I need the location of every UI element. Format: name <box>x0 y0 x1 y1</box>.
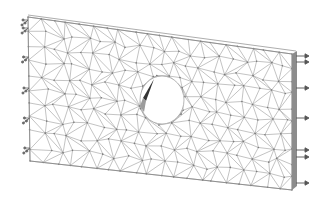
mesh-edge <box>216 100 226 103</box>
mesh-edge <box>114 156 129 159</box>
mesh-edge <box>73 150 90 151</box>
mesh-edge <box>105 114 121 115</box>
mesh-node <box>267 107 269 109</box>
mesh-edge <box>185 97 192 107</box>
mesh-node <box>185 65 187 67</box>
mesh-edge <box>45 133 63 153</box>
mesh-edge <box>81 38 91 52</box>
mesh-edge <box>100 42 115 43</box>
mesh-node <box>208 140 210 142</box>
mesh-edge <box>190 41 200 56</box>
mesh-edge <box>65 94 69 107</box>
mesh-edge <box>274 134 281 150</box>
mesh-edge <box>185 66 191 81</box>
mesh-edge <box>212 124 220 140</box>
mesh-edge <box>29 89 48 91</box>
mesh-edge <box>120 161 142 171</box>
mesh-node <box>116 129 118 131</box>
mesh-node <box>257 119 259 121</box>
mesh-edge <box>189 120 191 136</box>
mesh-node <box>269 173 271 175</box>
mesh-edge <box>227 142 233 153</box>
mesh-node <box>271 89 273 91</box>
mesh-edge <box>53 104 63 124</box>
mesh-edge <box>140 45 154 47</box>
mesh-edge <box>63 122 74 124</box>
mesh-node <box>44 132 46 134</box>
mesh-edge <box>53 94 65 105</box>
mesh-edge <box>89 69 102 72</box>
mesh-node <box>178 50 180 52</box>
mesh-edge <box>252 159 269 162</box>
mesh-edge <box>190 56 204 58</box>
mesh-node <box>173 62 175 64</box>
mesh-edge <box>265 135 274 150</box>
mesh-edge <box>42 78 49 89</box>
mesh-node <box>124 69 126 71</box>
mesh-edge <box>217 102 226 111</box>
mesh-edge <box>268 108 280 110</box>
mesh-node <box>118 59 120 61</box>
support-constraint-icon <box>22 117 29 124</box>
mesh-edge <box>192 97 201 107</box>
mesh-node <box>145 145 147 147</box>
mesh-node <box>51 150 53 152</box>
mesh-edge <box>172 123 181 136</box>
mesh-node <box>284 150 286 152</box>
mesh-edge <box>213 151 227 153</box>
mesh-edge <box>243 141 252 159</box>
mesh-edge <box>90 85 92 98</box>
load-arrow-icon <box>296 86 309 90</box>
mesh-node <box>120 140 122 142</box>
fem-mesh-figure <box>0 0 330 220</box>
mesh-edge <box>226 86 244 103</box>
mesh-node <box>278 81 280 83</box>
mesh-edge <box>121 141 142 161</box>
mesh-edge <box>81 123 87 141</box>
support-constraint-icon <box>21 19 28 26</box>
mesh-node <box>101 97 103 99</box>
mesh-edge <box>63 124 66 135</box>
mesh-node <box>268 161 270 163</box>
mesh-edge <box>90 151 103 154</box>
mesh-edge <box>226 45 233 59</box>
mesh-node <box>264 134 266 136</box>
mesh-edge <box>191 137 209 141</box>
mesh-node <box>53 133 55 135</box>
mesh-edge <box>253 104 258 120</box>
mesh-edge <box>210 43 219 57</box>
mesh-edge <box>237 155 244 170</box>
mesh-edge <box>190 56 198 68</box>
mesh-edge <box>30 149 52 150</box>
mesh-edge <box>54 134 66 136</box>
mesh-node <box>184 96 186 98</box>
mesh-edge <box>279 81 292 92</box>
mesh-edge <box>244 170 257 171</box>
mesh-edge <box>165 161 178 162</box>
mesh-edge <box>138 72 154 77</box>
mesh-edge <box>115 30 118 43</box>
mesh-node <box>46 120 48 122</box>
mesh-edge <box>45 47 46 64</box>
mesh-node <box>91 84 93 86</box>
mesh-edge <box>279 81 286 93</box>
mesh-node <box>174 149 176 151</box>
mesh-edge <box>112 70 125 73</box>
mesh-edge <box>45 106 47 121</box>
load-arrow-icon <box>296 54 309 58</box>
plate-mesh <box>0 0 330 220</box>
mesh-edge <box>81 110 87 123</box>
mesh-edge <box>94 109 117 130</box>
mesh-node <box>44 46 46 48</box>
mesh-edge <box>66 122 74 135</box>
plate-right-face <box>292 51 297 190</box>
mesh-edge <box>192 82 201 97</box>
mesh-node <box>186 147 188 149</box>
mesh-edge <box>192 107 200 123</box>
mesh-node <box>52 104 54 106</box>
mesh-edge <box>280 176 292 189</box>
mesh-node <box>171 122 173 124</box>
mesh-edge <box>192 82 204 83</box>
mesh-edge <box>121 100 125 115</box>
mesh-node <box>63 63 65 65</box>
